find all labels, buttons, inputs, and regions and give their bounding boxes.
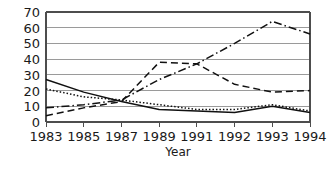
x-tick-label-1989: 1989 (143, 129, 176, 144)
x-tick-label-1991: 1991 (180, 129, 213, 144)
y-tick-label-0: 0 (32, 115, 40, 130)
x-tick-label-1983: 1983 (29, 129, 62, 144)
y-tick-label-40: 40 (23, 52, 40, 67)
y-tick-label-50: 50 (23, 36, 40, 51)
x-axis-title: Year (164, 145, 190, 159)
x-tick-label-1992: 1992 (218, 129, 251, 144)
y-tick-label-60: 60 (23, 21, 40, 36)
line-chart: 010203040506070 198319851987198919911992… (0, 0, 330, 169)
x-tick-label-1993: 1993 (256, 129, 289, 144)
x-tick-label-1994: 1994 (293, 129, 326, 144)
chart-canvas: 010203040506070 198319851987198919911992… (0, 0, 330, 169)
y-axis-tick-labels: 010203040506070 (23, 5, 40, 130)
y-tick-label-30: 30 (23, 68, 40, 83)
x-tick-label-1985: 1985 (67, 129, 100, 144)
y-tick-label-70: 70 (23, 5, 40, 20)
y-tick-label-10: 10 (23, 99, 40, 114)
y-tick-label-20: 20 (23, 84, 40, 99)
x-tick-label-1987: 1987 (105, 129, 138, 144)
